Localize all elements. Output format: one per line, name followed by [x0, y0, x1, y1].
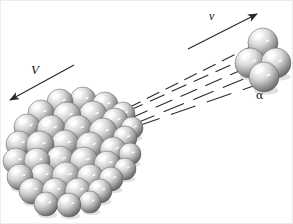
velocity-arrow-group	[10, 14, 257, 100]
diagram-canvas	[1, 1, 293, 224]
nucleon-sphere	[57, 193, 81, 217]
trajectory-line	[135, 84, 259, 127]
recoil-velocity-label: V	[31, 63, 39, 76]
nucleon-sphere	[249, 62, 279, 92]
alpha-particle-label: α	[256, 90, 263, 101]
nucleon-sphere	[34, 192, 58, 216]
alpha-decay-figure: V v α	[0, 0, 293, 224]
emission-arrow	[188, 14, 257, 49]
alpha-particle	[235, 28, 291, 95]
heavy-nucleus	[3, 87, 143, 219]
alpha-velocity-label: v	[209, 10, 214, 22]
nucleon-sphere	[79, 191, 101, 213]
